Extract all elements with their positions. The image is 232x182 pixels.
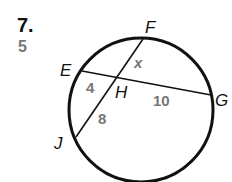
point-label-G: G xyxy=(215,91,228,110)
segment-HG-value: 10 xyxy=(153,92,170,109)
point-label-E: E xyxy=(60,61,72,80)
point-label-H: H xyxy=(115,83,128,102)
segment-EH-value: 4 xyxy=(86,79,95,96)
point-label-F: F xyxy=(145,18,157,37)
circle-diagram: F E G H J x 4 10 8 xyxy=(0,0,232,182)
segment-FH-value: x xyxy=(133,54,143,71)
segment-HJ-value: 8 xyxy=(98,110,106,127)
point-label-J: J xyxy=(53,134,63,153)
chord-EG xyxy=(82,71,211,95)
